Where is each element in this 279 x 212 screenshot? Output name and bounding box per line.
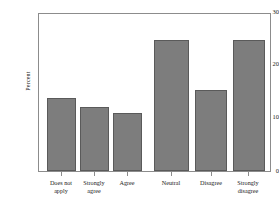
- x-tick-label-strongly-disagree: Strongly disagree: [224, 179, 272, 195]
- plot-area: [38, 13, 271, 172]
- bar-strongly-disagree: [233, 40, 265, 171]
- bar-chart: Percent 30 20 10 0 Does not apply Strong…: [0, 0, 279, 212]
- bar-does-not-apply: [47, 98, 76, 171]
- y-axis-title: Percent: [25, 51, 31, 111]
- x-tick-label-agree: Agree: [103, 179, 151, 187]
- bar-neutral: [154, 40, 189, 171]
- bars-layer: [39, 14, 270, 171]
- bar-disagree: [195, 90, 227, 171]
- x-tick-mark-3: [127, 172, 128, 176]
- x-tick-mark-4: [171, 172, 172, 176]
- x-tick-mark-1: [61, 172, 62, 176]
- x-tick-mark-2: [94, 172, 95, 176]
- bar-strongly-agree: [80, 107, 109, 171]
- x-tick-mark-5: [211, 172, 212, 176]
- bar-agree: [113, 113, 142, 171]
- x-tick-mark-6: [248, 172, 249, 176]
